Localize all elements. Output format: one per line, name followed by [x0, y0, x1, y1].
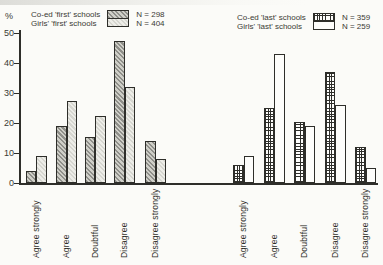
x-label-last-schools-agree-strongly: Agree strongly — [238, 184, 249, 258]
y-axis-unit-label: % — [5, 11, 13, 21]
bar-co-ed-first-schools-disagree — [114, 41, 125, 184]
y-tick-label-20: 20 — [0, 119, 14, 128]
bar-girls-first-schools-disagree-strongly — [156, 159, 167, 183]
x-label-first-schools-agree-strongly: Agree strongly — [31, 184, 42, 258]
y-tick-label-40: 40 — [0, 59, 14, 68]
x-label-last-schools-disagree: Disagree — [330, 184, 341, 258]
x-label-last-schools-doubtful: Doubtful — [299, 184, 310, 258]
bar-co-ed-last-schools-disagree — [325, 72, 336, 183]
legend-label-girls-last: Girls' 'last' schools — [237, 22, 306, 31]
bar-co-ed-first-schools-agree-strongly — [26, 171, 37, 183]
y-tick-30 — [14, 93, 19, 94]
x-label-last-schools-disagree-strongly: Disagree strongly — [360, 184, 371, 258]
y-tick-label-30: 30 — [0, 89, 14, 98]
bar-co-ed-first-schools-agree — [56, 126, 67, 183]
x-label-first-schools-doubtful: Doubtful — [90, 184, 101, 258]
legend-n-girls-last: N = 259 — [342, 22, 370, 31]
legend-label-coed-first: Co-ed 'first' schools — [31, 10, 100, 19]
bar-girls-first-schools-disagree — [125, 87, 136, 183]
bar-girls-last-schools-disagree — [335, 105, 346, 183]
y-tick-40 — [14, 63, 19, 64]
figure: Co-ed 'first' schools N = 298 Girls' 'fi… — [0, 0, 383, 265]
legend-n-girls-first: N = 404 — [136, 19, 164, 28]
scan-smudge — [0, 0, 383, 5]
bar-co-ed-first-schools-disagree-strongly — [145, 141, 156, 183]
legend-label-girls-first: Girls' 'first' schools — [31, 19, 100, 28]
bar-girls-first-schools-agree — [67, 101, 78, 184]
x-label-last-schools-agree: Agree — [269, 184, 280, 258]
bar-girls-first-schools-doubtful — [95, 116, 106, 184]
legend-swatch-girls-last — [313, 21, 335, 30]
legend-n-coed-last: N = 359 — [342, 13, 370, 22]
y-axis — [19, 30, 21, 184]
y-tick-50 — [14, 33, 19, 34]
y-tick-0 — [14, 183, 19, 184]
legend-label-coed-last: Co-ed 'last' schools — [237, 13, 306, 22]
bar-co-ed-last-schools-agree — [264, 108, 275, 183]
legend-n-coed-first: N = 298 — [136, 10, 164, 19]
x-axis — [19, 183, 378, 185]
x-label-first-schools-disagree: Disagree — [119, 184, 130, 258]
y-tick-label-10: 10 — [0, 149, 14, 158]
y-tick-20 — [14, 123, 19, 124]
legend-first-schools: Co-ed 'first' schools N = 298 Girls' 'fi… — [31, 10, 165, 28]
legend-swatch-girls-first — [107, 18, 129, 27]
bar-girls-last-schools-agree-strongly — [244, 156, 255, 183]
bar-girls-first-schools-agree-strongly — [36, 156, 47, 183]
legend-last-schools: Co-ed 'last' schools N = 359 Girls' 'las… — [237, 13, 370, 31]
y-tick-10 — [14, 153, 19, 154]
y-tick-label-0: 0 — [0, 179, 14, 188]
bar-co-ed-last-schools-disagree-strongly — [355, 147, 366, 183]
bar-girls-last-schools-disagree-strongly — [366, 168, 377, 183]
bar-co-ed-last-schools-doubtful — [294, 122, 305, 184]
bar-co-ed-last-schools-agree-strongly — [233, 165, 244, 183]
bar-co-ed-first-schools-doubtful — [85, 137, 96, 184]
bar-girls-last-schools-doubtful — [305, 126, 316, 183]
x-label-first-schools-agree: Agree — [61, 184, 72, 258]
bar-girls-last-schools-agree — [274, 54, 285, 183]
y-tick-label-50: 50 — [0, 29, 14, 38]
x-label-first-schools-disagree-strongly: Disagree strongly — [150, 184, 161, 258]
